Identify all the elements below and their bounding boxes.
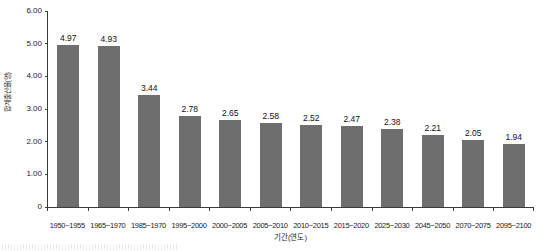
bar-slot: 3.44 bbox=[129, 12, 170, 207]
x-axis-tick-label: 2005~2010 bbox=[250, 221, 291, 230]
bar-value-label: 2.47 bbox=[332, 114, 373, 124]
x-axis-tick-label: 2045~2050 bbox=[412, 221, 453, 230]
x-axis-tick-mark bbox=[290, 208, 291, 211]
bar bbox=[219, 120, 241, 207]
y-axis-tick-label: 6.00 bbox=[26, 6, 42, 15]
bar-slot: 2.21 bbox=[413, 12, 454, 207]
bar-slot: 2.47 bbox=[332, 12, 373, 207]
x-axis-tick-label: 1995~2000 bbox=[169, 221, 210, 230]
x-axis-tick bbox=[88, 208, 129, 212]
x-axis-tick bbox=[47, 208, 88, 212]
x-axis-tick bbox=[169, 208, 210, 212]
bar-slot: 4.93 bbox=[89, 12, 130, 207]
x-axis-tick-label: 1965~1970 bbox=[88, 221, 129, 230]
x-axis-tick bbox=[290, 208, 331, 212]
x-axis-tick-mark bbox=[533, 208, 534, 211]
bar bbox=[341, 126, 363, 207]
bar-slot: 2.65 bbox=[210, 12, 251, 207]
x-axis-tick bbox=[331, 208, 372, 212]
bar-value-label: 2.65 bbox=[210, 108, 251, 118]
x-axis-tick-mark bbox=[412, 208, 413, 211]
x-axis-tick bbox=[493, 208, 534, 212]
x-axis-ticks bbox=[47, 208, 534, 212]
x-axis-tick bbox=[453, 208, 494, 212]
bar-value-label: 2.05 bbox=[453, 128, 494, 138]
x-axis-tick-label: 2015~2020 bbox=[331, 221, 372, 230]
bar bbox=[98, 46, 120, 207]
bar bbox=[300, 125, 322, 207]
bar-slot: 2.58 bbox=[251, 12, 292, 207]
bar-value-label: 3.44 bbox=[129, 83, 170, 93]
x-axis-tick-mark bbox=[331, 208, 332, 211]
x-axis-tick-mark bbox=[128, 208, 129, 211]
scan-artifact bbox=[2, 244, 177, 250]
x-axis-tick-label: 2095~2100 bbox=[493, 221, 534, 230]
bar-value-label: 2.38 bbox=[372, 117, 413, 127]
y-axis-tick-label: 3.00 bbox=[26, 104, 42, 113]
bar-value-label: 2.58 bbox=[251, 111, 292, 121]
bar bbox=[179, 116, 201, 207]
bar bbox=[260, 123, 282, 207]
x-axis-tick-label: 2010~2015 bbox=[290, 221, 331, 230]
y-axis-tick-label: 4.00 bbox=[26, 71, 42, 80]
x-axis-tick-label: 1950~1955 bbox=[47, 221, 88, 230]
x-axis-tick-mark bbox=[169, 208, 170, 211]
bar-slot: 2.78 bbox=[170, 12, 211, 207]
x-axis-tick bbox=[128, 208, 169, 212]
bar-chart: 합계출산율(명) 6.005.004.003.002.001.000 4.974… bbox=[0, 0, 546, 251]
x-axis-tick-mark bbox=[47, 208, 48, 211]
bar bbox=[422, 135, 444, 207]
x-axis-tick-mark bbox=[453, 208, 454, 211]
plot-area: 6.005.004.003.002.001.000 4.974.933.442.… bbox=[47, 12, 534, 208]
bar bbox=[138, 95, 160, 207]
bar-value-label: 2.52 bbox=[291, 113, 332, 123]
x-axis-tick-mark bbox=[250, 208, 251, 211]
bar bbox=[57, 45, 79, 207]
x-axis-tick-mark bbox=[209, 208, 210, 211]
y-axis-tick-label: 5.00 bbox=[26, 39, 42, 48]
bar bbox=[381, 129, 403, 207]
x-axis-title: 기간(연도) bbox=[47, 233, 534, 242]
bar-slot: 4.97 bbox=[48, 12, 89, 207]
y-axis-title: 합계출산율(명) bbox=[4, 52, 12, 132]
bar-slot: 2.52 bbox=[291, 12, 332, 207]
y-axis-tick-label: 1.00 bbox=[26, 169, 42, 178]
bar-value-label: 4.93 bbox=[89, 34, 130, 44]
bar-value-label: 2.78 bbox=[170, 104, 211, 114]
x-axis-tick-mark bbox=[372, 208, 373, 211]
bar-slot: 2.38 bbox=[372, 12, 413, 207]
bar-value-label: 2.21 bbox=[413, 123, 454, 133]
bar-series: 4.974.933.442.782.652.582.522.472.382.21… bbox=[48, 12, 534, 207]
bar-slot: 2.05 bbox=[453, 12, 494, 207]
x-axis-tick-label: 2025~2030 bbox=[372, 221, 413, 230]
x-axis-tick-label: 2000~2005 bbox=[209, 221, 250, 230]
y-axis-tick-label: 0 bbox=[38, 202, 42, 211]
bar-value-label: 1.94 bbox=[494, 132, 535, 142]
bar-slot: 1.94 bbox=[494, 12, 535, 207]
x-axis-tick-label: 2070~2075 bbox=[453, 221, 494, 230]
y-axis-tick-label: 2.00 bbox=[26, 137, 42, 146]
x-axis-tick bbox=[412, 208, 453, 212]
bar bbox=[462, 140, 484, 207]
x-axis-tick-label: 1985~1970 bbox=[128, 221, 169, 230]
x-axis-tick-mark bbox=[88, 208, 89, 211]
x-axis-tick bbox=[209, 208, 250, 212]
x-axis-tick bbox=[372, 208, 413, 212]
x-axis-tick-mark bbox=[493, 208, 494, 211]
bar-value-label: 4.97 bbox=[48, 33, 89, 43]
x-axis-tick bbox=[250, 208, 291, 212]
x-axis-tick-labels: 1950~19551965~19701985~19701995~20002000… bbox=[47, 221, 534, 230]
bar bbox=[503, 144, 525, 207]
